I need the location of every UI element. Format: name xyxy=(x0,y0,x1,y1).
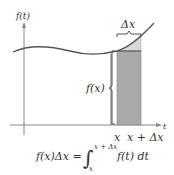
delta-brace-icon xyxy=(117,31,141,37)
integrand: f(t) dt xyxy=(116,150,150,163)
integral-lower: x xyxy=(89,165,93,173)
x-tick-right: x + Δx xyxy=(127,131,164,144)
integral-diagram: f(t) t Δx f(x) x x + Δx f(x)Δx = ∫ x + Δ… xyxy=(0,0,174,175)
formula-left: f(x)Δx = xyxy=(35,150,82,163)
delta-x-label: Δx xyxy=(120,18,136,31)
f-of-x-label: f(x) xyxy=(85,82,105,95)
x-axis-label: t xyxy=(163,122,167,131)
height-brace-icon xyxy=(109,51,115,124)
area-rectangle xyxy=(117,51,141,125)
y-axis-label: f(t) xyxy=(15,11,30,21)
integral-upper: x + Δx xyxy=(94,143,117,151)
y-axis-arrow-icon xyxy=(22,22,26,28)
x-axis-arrow-icon xyxy=(156,123,162,127)
